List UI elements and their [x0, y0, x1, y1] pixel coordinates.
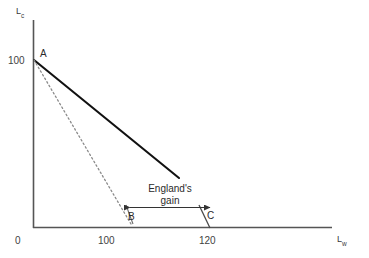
y-axis-label: Lc	[16, 7, 24, 18]
englands-gain-annotation: England's gain	[137, 183, 203, 206]
autarky-production-line	[34, 60, 131, 224]
x-axis-tick-100: 100	[98, 236, 115, 246]
x-axis-tick-120: 120	[199, 236, 216, 246]
trade-possibility-line	[34, 60, 179, 178]
englands-gain-line-2: gain	[137, 195, 203, 207]
chart-plot-area	[0, 0, 369, 258]
y-axis-tick-100: 100	[8, 56, 25, 66]
x-axis-label-subscript: w	[342, 240, 347, 247]
y-axis-label-subscript: c	[21, 12, 24, 19]
point-label-c: C	[207, 211, 214, 221]
x-axis-tick-0: 0	[15, 236, 21, 246]
point-label-a: A	[40, 49, 47, 59]
x-axis-label: Lw	[337, 235, 347, 246]
englands-gain-line-1: England's	[137, 183, 203, 195]
point-label-b: B	[128, 212, 135, 222]
ricardian-trade-gains-chart: Lc Lw 100 0 100 120 A B C England's gain	[0, 0, 369, 258]
